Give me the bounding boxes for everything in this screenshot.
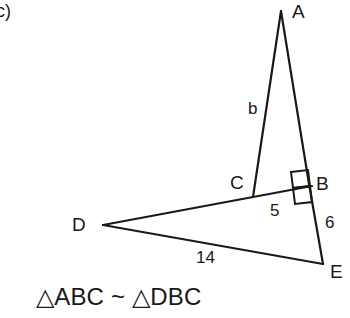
side-label-6: 6 [325,214,334,231]
side-label-b: b [248,100,257,117]
segment-DB [103,186,312,225]
side-label-5: 5 [270,202,279,219]
side-label-14: 14 [196,249,215,266]
vertex-label-b: B [316,174,329,193]
geometry-figure: c) A B C D E b 5 6 14 △ABC ~ △DBC [0,0,350,318]
vertex-label-d: D [72,215,86,234]
segment-AB [281,11,309,184]
vertex-label-a: A [292,2,305,21]
vertex-label-c: C [230,173,244,192]
diagram-canvas [0,0,350,318]
vertex-label-e: E [330,262,343,281]
similarity-statement: △ABC ~ △DBC [36,285,202,309]
item-tag: c) [0,2,11,20]
